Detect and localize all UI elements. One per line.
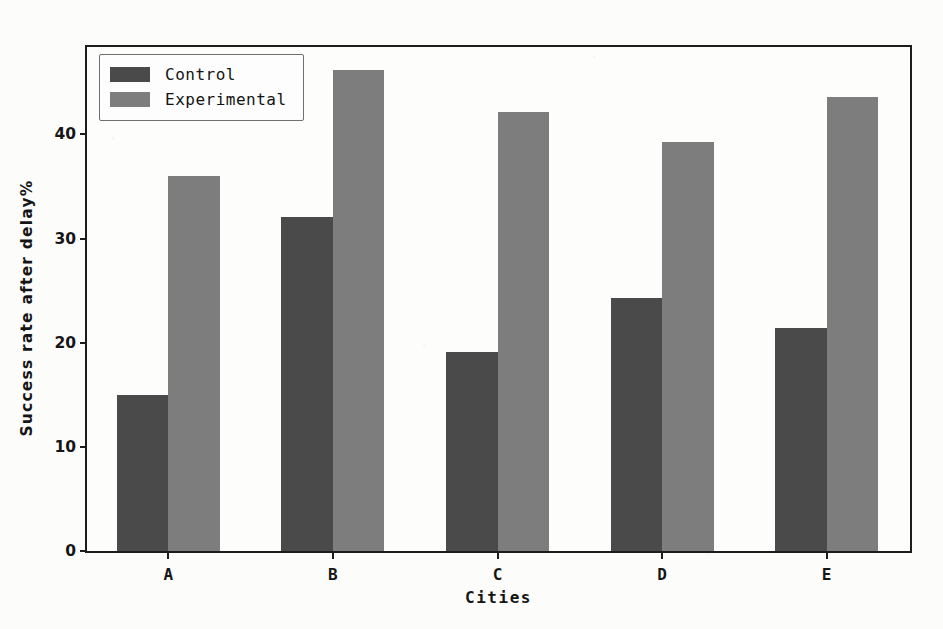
plot-frame: 010203040ABCDE ControlExperimental (85, 45, 912, 553)
bar-experimental-d (662, 142, 714, 551)
bar-control-c (446, 352, 498, 551)
legend-swatch-icon-experimental (110, 92, 150, 107)
x-axis-tick-mark (497, 551, 499, 559)
y-axis-tick-label: 20 (54, 334, 76, 352)
x-axis-tick-label-c: C (493, 565, 503, 584)
y-axis-tick-label: 0 (65, 542, 76, 560)
bar-experimental-b (333, 70, 385, 551)
y-axis-tick-label: 40 (54, 125, 76, 143)
legend-item-control: Control (110, 62, 287, 87)
legend-swatch-icon-control (110, 67, 150, 82)
y-axis-tick-mark (80, 446, 87, 448)
x-axis-tick-label-d: D (657, 565, 667, 584)
bar-experimental-e (827, 97, 879, 551)
y-axis-tick-label: 10 (54, 438, 76, 456)
x-axis-tick-mark (332, 551, 334, 559)
y-axis-tick-mark (80, 238, 87, 240)
bar-experimental-c (498, 112, 550, 551)
x-axis-tick-label-a: A (163, 565, 173, 584)
y-axis-tick-mark (80, 342, 87, 344)
legend-label: Experimental (165, 90, 287, 109)
plot-area: 010203040ABCDE (87, 47, 910, 551)
legend-item-experimental: Experimental (110, 87, 287, 112)
chart-figure: 010203040ABCDE ControlExperimental Citie… (0, 0, 943, 629)
x-axis-tick-label-e: E (822, 565, 832, 584)
y-axis-label: Success rate after delay% (18, 78, 36, 538)
x-axis-label: Cities (85, 588, 912, 607)
legend-label: Control (165, 65, 236, 84)
bar-control-d (611, 298, 663, 551)
y-axis-tick-label: 30 (54, 230, 76, 248)
chart-legend: ControlExperimental (99, 54, 304, 121)
y-axis-tick-mark (80, 550, 87, 552)
bar-control-a (117, 395, 169, 551)
y-axis-tick-mark (80, 133, 87, 135)
bar-experimental-a (168, 176, 220, 551)
x-axis-tick-mark (167, 551, 169, 559)
x-axis-tick-label-b: B (328, 565, 338, 584)
x-axis-tick-mark (661, 551, 663, 559)
bar-control-e (775, 328, 827, 551)
x-axis-tick-mark (826, 551, 828, 559)
bar-control-b (281, 217, 333, 551)
